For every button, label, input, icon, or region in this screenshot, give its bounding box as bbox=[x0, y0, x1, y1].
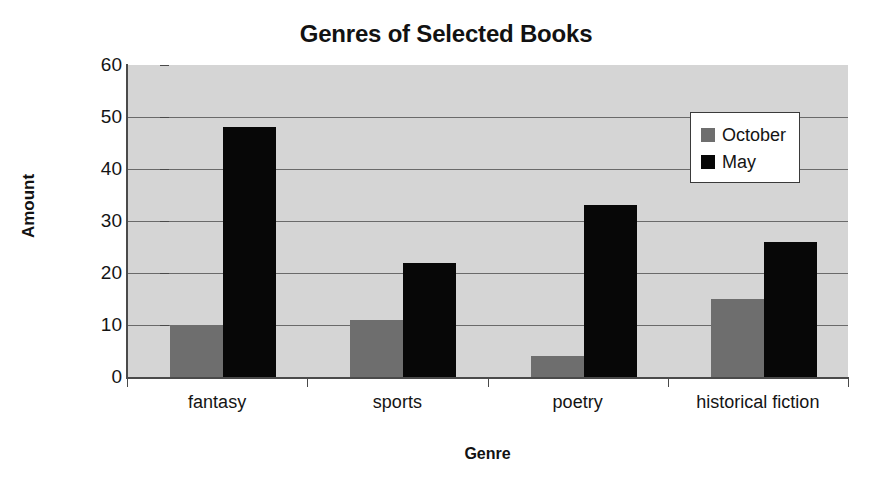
x-axis-tick-mark bbox=[488, 378, 489, 387]
y-axis-tick-mark bbox=[160, 325, 169, 326]
chart-legend: OctoberMay bbox=[690, 112, 800, 183]
y-axis-tick-mark bbox=[160, 221, 169, 222]
y-axis-title: Amount bbox=[19, 156, 39, 256]
x-axis-tick-mark bbox=[848, 378, 849, 387]
x-axis-category-label: sports bbox=[307, 392, 487, 413]
chart-container: Genres of Selected Books Amount 01020304… bbox=[0, 0, 892, 487]
y-axis-tick-label: 30 bbox=[62, 210, 122, 232]
y-axis-tick-mark bbox=[160, 65, 169, 66]
legend-swatch-october bbox=[701, 128, 715, 142]
legend-swatch-may bbox=[701, 155, 715, 169]
bar-poetry-may bbox=[584, 205, 637, 377]
y-axis-tick-mark bbox=[160, 117, 169, 118]
bar-sports-may bbox=[403, 263, 456, 377]
y-axis-tick-mark bbox=[160, 273, 169, 274]
legend-label: May bbox=[722, 153, 756, 171]
bar-historical-fiction-october bbox=[711, 299, 764, 377]
y-axis-line bbox=[126, 64, 128, 379]
bar-poetry-october bbox=[531, 356, 584, 377]
bar-historical-fiction-may bbox=[764, 242, 817, 377]
y-axis-tick-label: 40 bbox=[62, 158, 122, 180]
y-axis-tick-label: 60 bbox=[62, 54, 122, 76]
bar-fantasy-october bbox=[170, 325, 223, 377]
x-axis-tick-mark bbox=[127, 378, 128, 387]
y-axis-tick-label: 10 bbox=[62, 314, 122, 336]
x-axis-category-label: historical fiction bbox=[668, 392, 848, 413]
legend-item-october: October bbox=[701, 121, 799, 148]
x-axis-category-label: poetry bbox=[488, 392, 668, 413]
y-axis-ticks: 0102030405060 bbox=[42, 0, 122, 487]
y-axis-tick-label: 0 bbox=[62, 366, 122, 388]
legend-item-may: May bbox=[701, 148, 799, 175]
x-axis-tick-mark bbox=[668, 378, 669, 387]
legend-label: October bbox=[722, 126, 786, 144]
bar-fantasy-may bbox=[223, 127, 276, 377]
x-axis-category-label: fantasy bbox=[127, 392, 307, 413]
y-axis-tick-label: 20 bbox=[62, 262, 122, 284]
y-axis-tick-label: 50 bbox=[62, 106, 122, 128]
x-axis-title: Genre bbox=[127, 445, 848, 463]
x-axis-tick-mark bbox=[307, 378, 308, 387]
bar-sports-october bbox=[350, 320, 403, 377]
y-axis-tick-mark bbox=[160, 169, 169, 170]
chart-title: Genres of Selected Books bbox=[0, 20, 892, 48]
y-axis-tick-mark bbox=[160, 377, 169, 378]
